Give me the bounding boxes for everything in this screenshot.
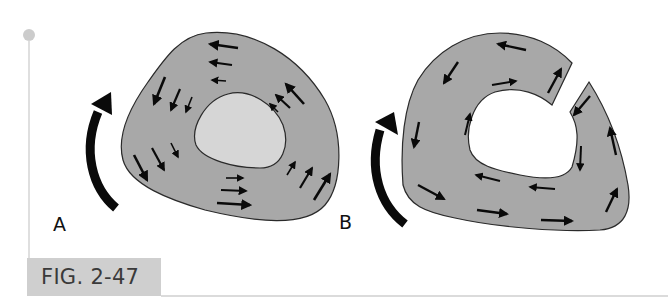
figure-caption-box: FIG. 2-47 [27,258,161,296]
marker-dot-icon [23,29,35,41]
panel-a [90,32,339,220]
panel-b [375,33,629,231]
cross-section-b [402,33,629,231]
panel-label-a: A [53,215,66,234]
rotation-arrow-a-icon [90,112,116,208]
panel-label-b: B [339,213,352,232]
rotation-arrow-b-icon [375,130,405,224]
margin-marker [23,29,35,258]
figure-caption: FIG. 2-47 [27,265,139,289]
